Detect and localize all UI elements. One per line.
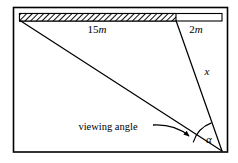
angle-symbol-label: α: [206, 133, 212, 145]
viewing-angle-annotation: viewing angle: [78, 121, 138, 132]
open-length-label: 2m: [189, 23, 203, 35]
bar-hatched-segment: [20, 14, 177, 22]
hatched-length-value: 15: [88, 23, 100, 35]
hatched-length-unit: m: [99, 23, 107, 35]
open-length-unit: m: [195, 23, 203, 35]
vertical-distance-label: x: [204, 65, 210, 77]
figure-container: 15m 2m x α viewing angle: [0, 0, 238, 163]
hatched-length-label: 15m: [88, 23, 107, 35]
geometry-diagram: 15m 2m x α viewing angle: [0, 0, 238, 163]
